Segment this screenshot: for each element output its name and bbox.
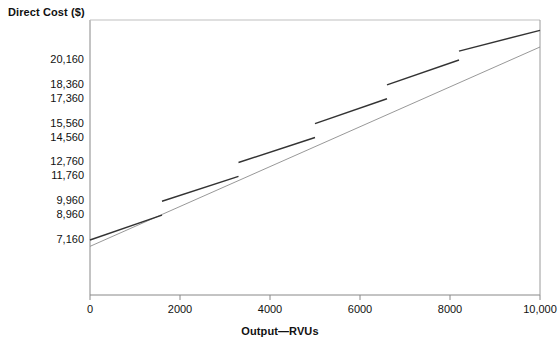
relevant-range-segment xyxy=(387,60,459,85)
x-axis-tick-marks xyxy=(90,295,540,300)
relevant-range-segment xyxy=(90,215,162,240)
relevant-range-segments xyxy=(90,30,540,240)
plot-area xyxy=(0,0,560,350)
relevant-range-segment xyxy=(459,30,540,51)
relevant-range-segment xyxy=(239,138,316,163)
chart-container: Direct Cost ($) Output—RVUs 20,16018,360… xyxy=(0,0,560,350)
